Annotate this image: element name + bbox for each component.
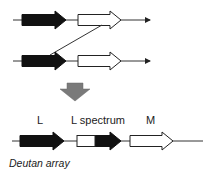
gene-L-arrow — [20, 132, 64, 150]
gene-hybrid-arrow — [77, 132, 121, 150]
upper-array-1 — [13, 11, 150, 29]
deutan-array — [12, 132, 203, 150]
diagram-canvas — [0, 0, 214, 178]
upper-array-2 — [13, 52, 150, 70]
crossover-line — [50, 25, 102, 55]
label-gene-M: M — [146, 114, 155, 126]
process-down-arrow-icon — [60, 83, 90, 101]
gene-M-arrow — [78, 52, 121, 70]
gene-L-arrow — [22, 11, 66, 29]
label-gene-L-spectrum: L spectrum — [71, 114, 125, 126]
gene-M-arrow — [130, 132, 173, 150]
gene-L-arrow — [22, 52, 66, 70]
caption-deutan-array: Deutan array — [9, 157, 70, 169]
label-gene-L: L — [37, 114, 43, 126]
